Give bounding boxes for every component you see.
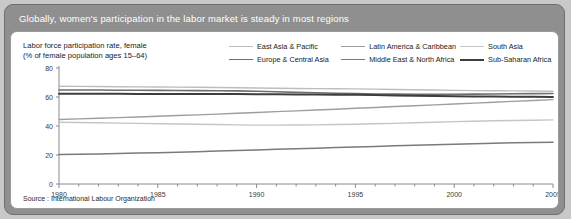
page-title: Globally, women's participation in the l… xyxy=(19,13,349,24)
series-line xyxy=(59,142,553,154)
x-tick-label: 2000 xyxy=(446,191,462,198)
y-tick-label: 0 xyxy=(49,181,53,188)
y-tick-label: 80 xyxy=(45,65,53,72)
source-note: Source : International Labour Organizati… xyxy=(23,195,155,202)
figure-container: Globally, women's participation in the l… xyxy=(4,4,565,215)
plot-area: 020406080198019851990199520002005 xyxy=(11,32,558,208)
x-tick-label: 2005 xyxy=(545,191,559,198)
series-line xyxy=(59,100,553,120)
chart-panel: Labor force participation rate, female (… xyxy=(10,31,559,209)
line-chart-svg: 020406080198019851990199520002005 xyxy=(11,32,559,209)
x-tick-label: 1990 xyxy=(249,191,265,198)
figure-header-bar: Globally, women's participation in the l… xyxy=(5,5,564,31)
y-tick-label: 20 xyxy=(45,152,53,159)
x-tick-label: 1995 xyxy=(348,191,364,198)
series-line xyxy=(59,120,553,125)
y-tick-label: 60 xyxy=(45,94,53,101)
y-tick-label: 40 xyxy=(45,123,53,130)
